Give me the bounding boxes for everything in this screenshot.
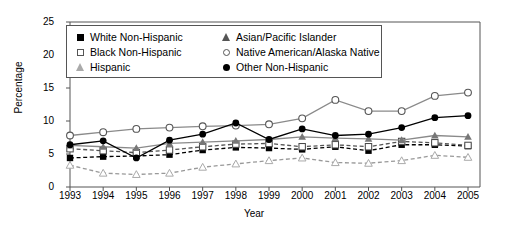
data-point <box>199 131 206 138</box>
data-point <box>465 142 471 148</box>
data-point <box>398 108 405 115</box>
data-point <box>431 114 438 121</box>
data-point <box>67 155 73 161</box>
data-point <box>232 160 240 167</box>
data-point <box>100 137 107 144</box>
data-point <box>199 163 207 170</box>
legend-label: Hispanic <box>90 61 130 73</box>
legend-label: Other Non-Hispanic <box>236 61 328 73</box>
legend-label: Asian/Pacific Islander <box>236 31 336 43</box>
legend-item: Black Non-Hispanic <box>73 44 183 59</box>
data-point <box>465 89 472 96</box>
legend-column-1: White Non-HispanicBlack Non-HispanicHisp… <box>73 29 183 74</box>
data-point <box>431 93 438 100</box>
data-point <box>265 157 273 164</box>
legend-column-2: Asian/Pacific IslanderNative American/Al… <box>219 29 380 74</box>
data-point <box>100 129 107 136</box>
data-point <box>166 137 173 144</box>
data-point <box>398 124 405 131</box>
data-point <box>299 115 306 122</box>
series-other-non-hispanic <box>67 112 472 161</box>
data-point <box>365 131 372 138</box>
data-point <box>166 147 172 153</box>
legend-item: Other Non-Hispanic <box>219 59 380 74</box>
line-chart: Percentage Year 0510152025 1993199419951… <box>0 0 508 228</box>
legend-item: White Non-Hispanic <box>73 29 183 44</box>
legend-item: Native American/Alaska Native <box>219 44 380 59</box>
data-point <box>432 140 438 146</box>
data-point <box>199 123 206 130</box>
data-point <box>67 132 74 139</box>
series-native-american-alaska-native <box>67 89 472 139</box>
data-point <box>365 144 371 150</box>
data-point <box>266 136 273 143</box>
data-point <box>332 142 338 148</box>
data-point <box>465 112 472 119</box>
data-point <box>299 126 306 133</box>
data-point <box>67 141 74 148</box>
data-point <box>66 161 74 168</box>
data-point <box>365 108 372 115</box>
filled-square-icon <box>73 31 87 43</box>
open-circle-icon <box>219 46 233 58</box>
data-point <box>232 120 239 127</box>
data-point <box>166 169 174 176</box>
data-point <box>133 126 140 133</box>
data-point <box>299 144 305 150</box>
data-point <box>332 132 339 139</box>
series-hispanic <box>66 152 472 178</box>
filled-triangle-icon <box>219 31 233 43</box>
legend-label: Native American/Alaska Native <box>236 46 380 58</box>
data-point <box>266 121 273 128</box>
data-point <box>166 124 173 131</box>
open-triangle-icon <box>73 61 87 73</box>
legend-label: Black Non-Hispanic <box>90 46 182 58</box>
legend-label: White Non-Hispanic <box>90 31 183 43</box>
legend-item: Asian/Pacific Islander <box>219 29 380 44</box>
legend-item: Hispanic <box>73 59 183 74</box>
open-square-icon <box>73 46 87 58</box>
chart-legend: White Non-HispanicBlack Non-HispanicHisp… <box>66 25 382 78</box>
filled-circle-icon <box>219 61 233 73</box>
data-point <box>332 96 339 103</box>
data-point <box>133 155 140 162</box>
